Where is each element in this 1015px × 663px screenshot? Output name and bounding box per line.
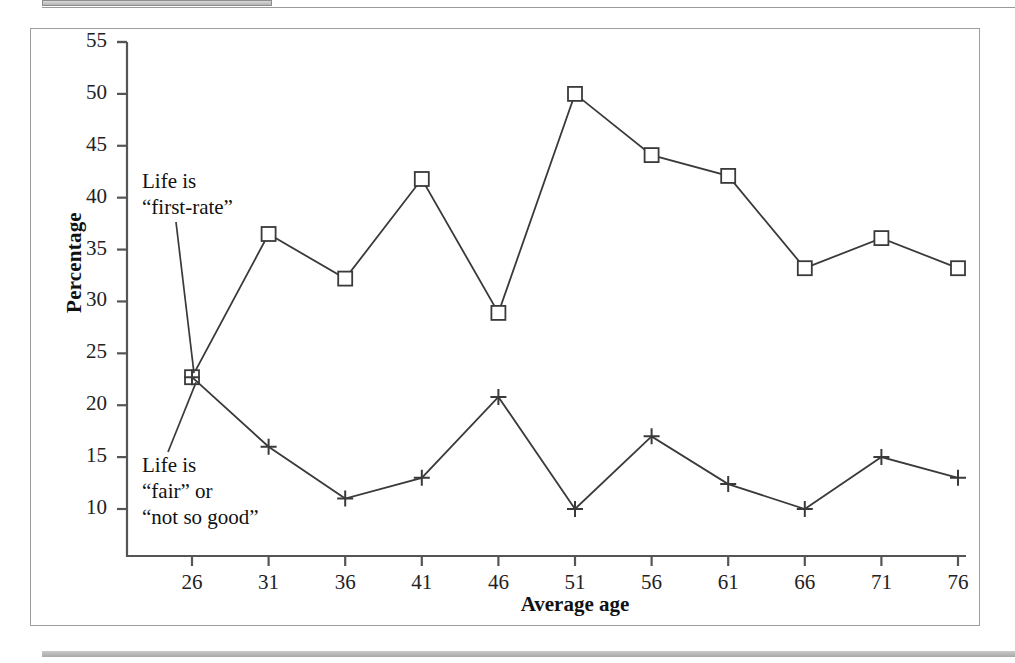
data-series [184,87,966,517]
marker-plus [950,470,966,486]
x-tick-label: 41 [392,570,452,595]
marker-plus [797,501,813,517]
chart-svg [0,0,1015,663]
series-line-0 [192,94,958,377]
marker-square [874,231,888,245]
marker-square [798,261,812,275]
x-tick-label: 66 [775,570,835,595]
y-tick-label: 15 [55,443,107,468]
plot-area: Percentage Average age 55504540353025201… [0,0,1015,663]
annotation-fair-not-so-good: Life is “fair” or “not so good” [142,452,259,530]
x-axis-title: Average age [192,592,958,617]
y-tick-label: 50 [55,80,107,105]
figure-page: Percentage Average age 55504540353025201… [0,0,1015,663]
x-tick-label: 76 [928,570,988,595]
marker-plus [873,449,889,465]
marker-square [568,87,582,101]
marker-square [721,169,735,183]
y-tick-label: 45 [55,132,107,157]
y-tick-label: 40 [55,184,107,209]
bottom-rule-decoration [42,651,1015,657]
marker-square [951,261,965,275]
x-tick-label: 26 [162,570,222,595]
y-tick-label: 20 [55,391,107,416]
y-tick-label: 10 [55,495,107,520]
y-tick-label: 55 [55,28,107,53]
x-tick-label: 71 [851,570,911,595]
x-tick-label: 56 [622,570,682,595]
x-tick-label: 61 [698,570,758,595]
x-tick-label: 36 [315,570,375,595]
marker-plus [720,476,736,492]
x-tick-label: 46 [468,570,528,595]
leader-line-lower [168,382,196,452]
marker-square [645,148,659,162]
marker-square [338,272,352,286]
annotation-first-rate: Life is “first-rate” [142,168,233,220]
y-tick-label: 30 [55,287,107,312]
x-tick-label: 31 [239,570,299,595]
marker-square [491,306,505,320]
annotation-leader-lines [168,222,196,452]
marker-square [415,172,429,186]
y-tick-label: 35 [55,236,107,261]
y-tick-label: 25 [55,339,107,364]
x-tick-label: 51 [545,570,605,595]
series-line-1 [192,377,958,509]
marker-plus [337,491,353,507]
marker-square [262,227,276,241]
leader-line-upper [176,222,194,373]
